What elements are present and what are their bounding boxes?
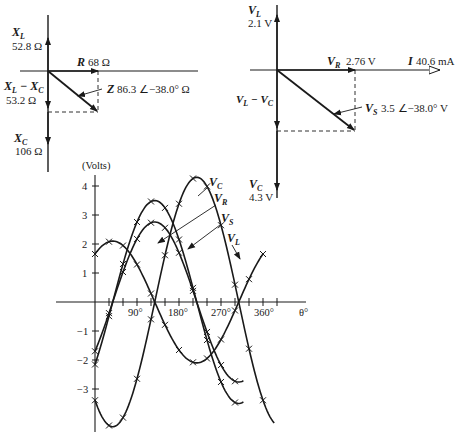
vs-value: 3.5 ∠−38.0° V [381, 102, 448, 114]
vl-curve-leader [232, 245, 240, 259]
z-label: Z [106, 82, 115, 96]
z-value: 86.3 ∠−38.0° Ω [117, 83, 190, 95]
data-point-marker [246, 276, 252, 282]
svg-text:4: 4 [82, 181, 88, 192]
data-point-marker [120, 243, 126, 249]
data-point-marker [134, 236, 140, 242]
x-tick-90: 90° [128, 307, 143, 318]
data-point-marker [176, 250, 182, 256]
data-point-marker [176, 347, 182, 353]
vl-curve-label: VL [227, 231, 240, 247]
data-point-marker [120, 415, 126, 421]
data-point-marker [162, 225, 168, 231]
vr-value: 2.76 V [346, 55, 376, 67]
data-point-marker [162, 205, 168, 211]
xl-label: XL [11, 25, 25, 41]
vs-curve-leader [188, 225, 220, 249]
xl-minus-xc-label: XL − XC [3, 79, 44, 95]
x-tick-270: 270° [211, 307, 231, 318]
vr-curve-label: VR [214, 191, 228, 207]
xl-minus-xc-value: 53.2 Ω [6, 94, 36, 106]
svg-text:−2: −2 [77, 355, 88, 366]
data-point-marker [260, 251, 266, 257]
data-point-marker [162, 322, 168, 328]
svg-text:−1: −1 [77, 326, 88, 337]
vl-minus-vc-label: VL − VC [236, 93, 274, 108]
data-point-marker [106, 422, 112, 428]
data-point-marker [218, 336, 224, 342]
impedance-phasor-diagram: XL 52.8 Ω R 68 Ω XL − XC 53.2 Ω Z 86.3 ∠… [3, 15, 198, 172]
diagram-canvas: XL 52.8 Ω R 68 Ω XL − XC 53.2 Ω Z 86.3 ∠… [0, 0, 458, 439]
xc-value: 106 Ω [15, 145, 42, 157]
i-label: I [407, 54, 414, 68]
data-point-marker [204, 355, 210, 361]
data-point-marker [218, 362, 224, 368]
svg-text:3: 3 [82, 210, 87, 221]
vs-curve-label: VS [221, 211, 234, 227]
vs-leader-line [334, 107, 362, 114]
vs-label: VS [365, 101, 378, 117]
data-point-marker [190, 176, 196, 182]
vl-value: 2.1 V [248, 17, 272, 29]
svg-text:1: 1 [82, 268, 87, 279]
x-tick-360: 360° [254, 307, 274, 318]
voltage-phasor-diagram: VL 2.1 V VR 2.76 V I 40.6 mA VL − VC VS … [236, 3, 455, 203]
data-point-marker [134, 262, 140, 268]
y-axis-label: (Volts) [82, 160, 111, 172]
r-label: R [76, 55, 85, 69]
r-value: 68 Ω [88, 56, 110, 68]
x-axis-label: θ° [299, 307, 308, 318]
vc-value: 4.3 V [249, 191, 273, 203]
vs-arrow [277, 70, 354, 130]
data-point-marker [218, 379, 224, 385]
z-arrow [48, 71, 97, 111]
data-point-marker [232, 307, 238, 313]
i-value: 40.6 mA [416, 55, 455, 67]
data-point-marker [148, 291, 154, 297]
vr-label: VR [327, 54, 341, 70]
svg-text:2: 2 [82, 239, 87, 250]
xl-value: 52.8 Ω [12, 40, 42, 52]
vc-curve-label: VC [209, 175, 223, 191]
svg-text:−3: −3 [77, 384, 88, 395]
data-point-marker [134, 219, 140, 225]
vc-curve-leader [198, 188, 207, 196]
x-tick-180: 180° [168, 307, 188, 318]
